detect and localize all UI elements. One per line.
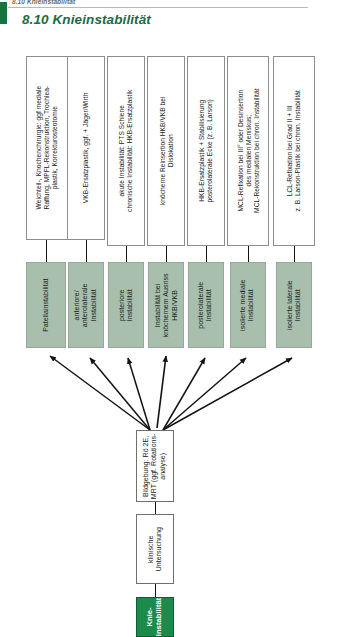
start-node-knee-instability: Knie- instabilität (136, 597, 174, 637)
treatment-label: knöcherne Reinsertion HKB/VKB bei Dislok… (158, 97, 174, 206)
section-title: 8.10 Knieinstabilität (22, 12, 151, 27)
treatment-box-bony-avulsion: knöcherne Reinsertion HKB/VKB bei Dislok… (147, 56, 185, 246)
instability-label: posterolaterale Instabilität (198, 281, 215, 328)
instability-box-medial: isolierte mediale Instabilität (230, 262, 266, 348)
connector-posterolateral (206, 246, 207, 262)
instability-box-lateral: isolierte laterale Instabilität (276, 262, 312, 348)
diagnostic-label: Bildgebung: Rö 2E, MRT (ggf. Rotations- … (143, 433, 168, 499)
instability-label: Instabilität bei knöchernem Ausriss HKB/… (154, 273, 179, 337)
treatment-label: Weichteil-, Knochenchirurgie: ggf medial… (35, 86, 58, 210)
instability-label: posteriore Instabilität (118, 289, 135, 321)
connector-patella (46, 240, 47, 262)
connector-exam-to-start (155, 584, 156, 597)
instability-box-posterior: posteriore Instabilität (108, 262, 144, 348)
running-head: 8.10 Knieinstabilität (12, 0, 75, 5)
treatment-box-posterolateral: HKB-Ersatzplastik + Stabilisierung poste… (187, 56, 225, 246)
treatment-box-lateral: LCL-Refixation bei Grad II + III z. B. L… (273, 56, 315, 246)
treatment-box-patella: Weichteil-, Knochenchirurgie: ggf medial… (26, 56, 68, 240)
connector-bony-avulsion (166, 246, 167, 262)
treatment-label: akute Instabilität: PTS Schiene chronisc… (118, 90, 134, 212)
instability-label: anteriore/ anterolaterale Instabilität (74, 283, 99, 327)
connector-posterior (126, 246, 127, 262)
instability-box-posterolateral: posterolaterale Instabilität (188, 262, 224, 348)
diagnostic-label: klinische Untersuchung (147, 527, 164, 571)
treatment-box-medial: MCL-Refixation bei III° oder Desinsertio… (227, 56, 269, 246)
connector-imaging-to-exam (155, 502, 156, 514)
treatment-box-anterior: VKB-Ersatzplastik, ggf. + Jäger/Wirth (67, 56, 105, 240)
instability-box-patella: Patellainstabilität (26, 262, 66, 348)
treatment-box-posterior: akute Instabilität: PTS Schiene chronisc… (107, 56, 145, 246)
treatment-label: VKB-Ersatzplastik, ggf. + Jäger/Wirth (82, 93, 90, 204)
instability-box-anterior: anteriore/ anterolaterale Instabilität (68, 262, 104, 348)
start-node-label: Knie- instabilität (146, 598, 164, 637)
instability-box-bony-avulsion: Instabilität bei knöchernem Ausriss HKB/… (148, 262, 184, 348)
connector-medial (248, 246, 249, 262)
treatment-label: HKB-Ersatzplastik + Stabilisierung poste… (198, 99, 214, 202)
page-crop-mark (0, 2, 7, 24)
diagnostic-box-imaging: Bildgebung: Rö 2E, MRT (ggf. Rotations- … (136, 430, 174, 502)
treatment-label: MCL-Refixation bei III° oder Desinsertio… (236, 89, 259, 214)
running-head-rule (8, 7, 308, 8)
connector-anterior (86, 240, 87, 262)
diagnostic-box-clinical-exam: klinische Untersuchung (136, 514, 174, 584)
instability-label: Patellainstabilität (42, 278, 50, 331)
instability-label: isolierte laterale Instabilität (286, 280, 303, 330)
instability-label: isolierte mediale Instabilität (240, 279, 257, 330)
connector-lateral (294, 246, 295, 262)
treatment-label: LCL-Refixation bei Grad II + III z. B. L… (286, 90, 302, 211)
